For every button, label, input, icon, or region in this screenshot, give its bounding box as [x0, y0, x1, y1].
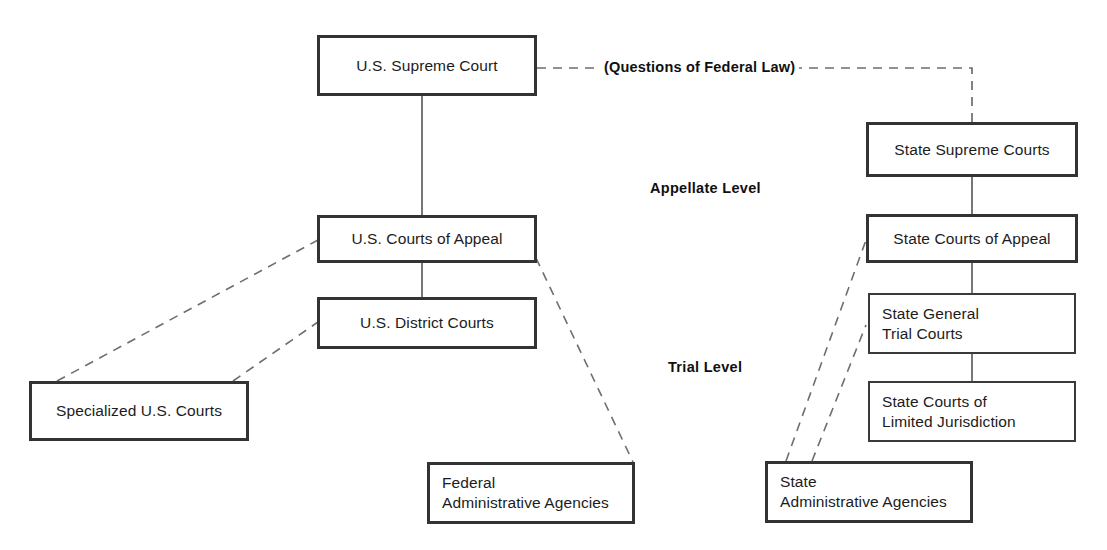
- node-label: U.S. District Courts: [320, 313, 534, 333]
- node-state-supreme-courts[interactable]: State Supreme Courts: [866, 122, 1078, 177]
- level-label-trial: Trial Level: [668, 359, 742, 375]
- node-label: Specialized U.S. Courts: [32, 401, 246, 421]
- node-label: State General Trial Courts: [870, 304, 1074, 344]
- connector-state-agencies-to-appeal: [786, 240, 866, 461]
- connector-specialized-to-appeal: [57, 240, 318, 381]
- connector-specialized-to-district: [233, 322, 318, 381]
- node-label: U.S. Supreme Court: [320, 56, 534, 76]
- node-label: State Courts of Limited Jurisdiction: [870, 392, 1074, 432]
- node-us-district-courts[interactable]: U.S. District Courts: [317, 297, 537, 349]
- level-label-appellate: Appellate Level: [650, 180, 761, 196]
- node-specialized-us-courts[interactable]: Specialized U.S. Courts: [29, 381, 249, 441]
- node-label: U.S. Courts of Appeal: [320, 229, 534, 249]
- connector-state-agencies-to-general-trial: [812, 325, 866, 461]
- edge-label-questions-of-federal-law: (Questions of Federal Law): [600, 59, 799, 75]
- node-state-administrative-agencies[interactable]: State Administrative Agencies: [765, 461, 973, 523]
- node-us-courts-of-appeal[interactable]: U.S. Courts of Appeal: [317, 215, 537, 263]
- connector-appeal-to-federal-agencies: [536, 258, 633, 462]
- node-label: State Administrative Agencies: [768, 472, 970, 512]
- node-us-supreme-court[interactable]: U.S. Supreme Court: [317, 35, 537, 96]
- connector-federal-law-question: [537, 68, 972, 122]
- node-label: State Supreme Courts: [869, 140, 1075, 160]
- node-label: Federal Administrative Agencies: [430, 473, 632, 513]
- node-state-courts-of-appeal[interactable]: State Courts of Appeal: [866, 214, 1078, 263]
- node-state-general-trial-courts[interactable]: State General Trial Courts: [868, 293, 1076, 354]
- node-state-courts-limited-jurisdiction[interactable]: State Courts of Limited Jurisdiction: [868, 381, 1076, 442]
- node-label: State Courts of Appeal: [869, 229, 1075, 249]
- court-system-diagram: U.S. Supreme Court U.S. Courts of Appeal…: [0, 0, 1107, 550]
- node-federal-administrative-agencies[interactable]: Federal Administrative Agencies: [427, 462, 635, 524]
